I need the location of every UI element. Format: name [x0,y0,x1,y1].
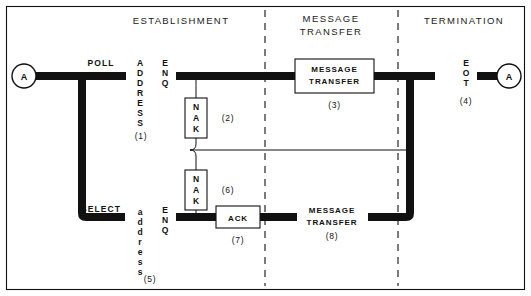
address-lower-vertical-label: a d d r e s s [137,207,142,277]
svg-text:s: s [138,267,143,277]
svg-text:S: S [137,118,143,128]
phase-header-message-transfer-line2: TRANSFER [300,26,362,37]
svg-text:K: K [193,196,200,206]
nak-6-text: N A K [193,174,200,206]
svg-text:O: O [463,68,470,78]
phase-header-establishment: ESTABLISHMENT [133,15,230,26]
nak-6-inlet-line [190,150,196,170]
message-transfer-8-line1: MESSAGE [309,206,355,215]
lower-to-termination-corner [404,80,410,217]
svg-text:e: e [138,247,143,257]
address-lower-number: (5) [144,274,157,284]
poll-to-select-trunk [36,76,125,217]
svg-text:Q: Q [162,78,169,88]
svg-text:D: D [137,68,143,78]
svg-text:E: E [162,205,168,215]
svg-text:a: a [138,207,143,217]
svg-text:d: d [137,227,142,237]
message-transfer-3-line2: TRANSFER [309,77,360,86]
svg-text:E: E [137,98,143,108]
enq-upper-vertical-label: E N Q [162,58,169,88]
enq-lower-vertical-label: E N Q [162,205,169,235]
node-a-left-label: A [21,72,28,82]
nak-6-number: (6) [222,185,235,195]
svg-text:T: T [463,78,469,88]
message-transfer-3-line1: MESSAGE [311,65,357,74]
svg-text:A: A [137,58,143,68]
svg-text:D: D [137,78,143,88]
phase-header-message-transfer-line1: MESSAGE [303,13,360,24]
svg-text:d: d [137,217,142,227]
ack-7-text: ACK [228,214,248,223]
svg-text:N: N [193,174,199,184]
svg-text:A: A [193,185,199,195]
svg-text:N: N [162,68,168,78]
svg-text:r: r [138,237,142,247]
svg-text:R: R [137,88,143,98]
nak-2-number: (2) [222,113,235,123]
node-a-right-label: A [506,72,513,82]
svg-text:s: s [138,257,143,267]
protocol-sequence-diagram: ESTABLISHMENT MESSAGE TRANSFER TERMINATI… [0,0,531,296]
eot-number: (4) [460,96,473,106]
message-transfer-8-line2: TRANSFER [307,218,358,227]
svg-text:E: E [162,58,168,68]
svg-text:A: A [193,113,199,123]
svg-text:K: K [193,124,200,134]
select-label: SELECT [81,204,121,214]
svg-text:S: S [137,108,143,118]
eot-vertical-label: E O T [463,58,470,88]
address-upper-vertical-label: A D D R E S S [137,58,143,128]
nak-2-return-line [190,138,410,150]
nak-2-text: N A K [193,102,200,134]
svg-text:Q: Q [162,225,169,235]
ack-7-number: (7) [232,235,245,245]
message-transfer-8-number: (8) [326,231,339,241]
phase-header-termination: TERMINATION [424,15,504,26]
poll-label: POLL [87,58,114,68]
svg-text:E: E [463,58,469,68]
message-transfer-3-number: (3) [328,100,341,110]
svg-text:N: N [193,102,199,112]
address-upper-number: (1) [135,131,148,141]
svg-text:N: N [162,215,168,225]
